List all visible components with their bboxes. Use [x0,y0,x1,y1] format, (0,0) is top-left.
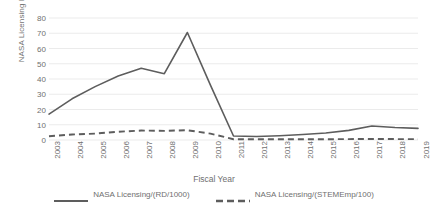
x-tick-label: 2010 [214,141,223,159]
x-tick-label: 2012 [260,141,269,159]
series-line-1 [49,32,418,136]
gridlines [49,18,418,140]
y-axis-title: NASA Licensing Metrics [17,0,26,84]
x-tick-label: 2018 [398,141,407,159]
x-tick-label: 2014 [306,141,315,159]
y-tick-label: 0 [42,136,46,145]
legend-item-1[interactable]: NASA Licensing/(RD/1000) [54,190,190,199]
x-tick-label: 2008 [168,141,177,159]
legend-dashed-line-icon [216,191,250,199]
y-tick-label: 40 [37,75,46,84]
x-tick-label: 2004 [76,141,85,159]
legend-solid-line-icon [54,191,88,199]
x-axis-title: Fiscal Year [0,174,428,184]
x-tick-label: 2019 [422,141,431,159]
x-tick-label: 2011 [237,141,246,158]
y-tick-label: 20 [37,105,46,114]
y-tick-label: 70 [37,29,46,38]
legend-item-2[interactable]: NASA Licensing/(STEMEmp/100) [216,190,374,199]
x-tick-label: 2007 [145,141,154,159]
x-tick-label: 2013 [283,141,292,159]
y-tick-label: 80 [37,14,46,23]
x-tick-label: 2006 [122,141,131,159]
x-tick-label: 2016 [352,141,361,159]
plot-area [49,18,418,140]
y-tick-label: 60 [37,44,46,53]
x-tick-label: 2003 [53,141,62,159]
x-tick-label: 2017 [375,141,384,159]
x-tick-label: 2009 [191,141,200,159]
x-tick-label: 2005 [99,141,108,159]
x-tick-label: 2015 [329,141,338,159]
y-tick-label: 10 [37,120,46,129]
chart-legend: NASA Licensing/(RD/1000)NASA Licensing/(… [0,190,428,199]
plot-svg [49,18,418,140]
y-tick-label: 50 [37,59,46,68]
y-tick-label: 30 [37,90,46,99]
legend-label: NASA Licensing/(STEMEmp/100) [255,190,374,199]
legend-label: NASA Licensing/(RD/1000) [93,190,190,199]
